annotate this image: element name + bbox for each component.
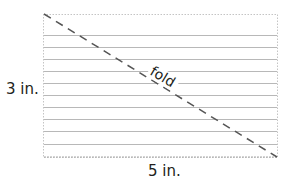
width-label: 5 in. <box>148 162 181 180</box>
height-label: 3 in. <box>6 80 39 98</box>
paper-diagram: fold <box>0 0 282 194</box>
